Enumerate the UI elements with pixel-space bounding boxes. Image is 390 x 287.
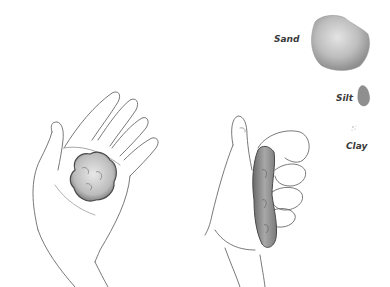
soil-ribbon: [253, 146, 277, 247]
soil-ball: [70, 152, 116, 201]
clay-label: Clay: [346, 141, 367, 151]
clay-particle: [352, 126, 357, 131]
silt-label: Silt: [336, 93, 353, 103]
sand-particle: [311, 15, 369, 70]
soil-texture-illustration: Sand Silt Clay: [0, 0, 390, 287]
illustration-canvas: [0, 0, 390, 287]
silt-particle: [358, 85, 370, 106]
sand-label: Sand: [274, 34, 299, 44]
